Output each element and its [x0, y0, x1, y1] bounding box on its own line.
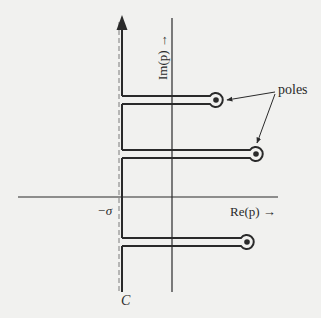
- contour-arrow-up-icon: [117, 15, 128, 30]
- pole-detour-3: [122, 235, 254, 249]
- real-axis-label: Re(p) →: [230, 205, 276, 218]
- poles-pointer-arrow-2: [257, 94, 275, 143]
- pole-dot-1: [213, 97, 219, 103]
- sigma-label: −σ: [97, 204, 112, 217]
- poles-pointer-arrow-1: [227, 92, 275, 100]
- pole-detour-2: [122, 147, 263, 161]
- imaginary-axis-label: Im(p) →: [156, 34, 169, 80]
- poles-label: poles: [278, 83, 308, 97]
- contour-c: [122, 26, 263, 292]
- pole-dot-3: [244, 239, 250, 245]
- contour-label: C: [121, 294, 130, 308]
- pole-dot-2: [253, 151, 259, 157]
- contour-diagram: Im(p) → Re(p) → −σ C poles: [0, 0, 321, 318]
